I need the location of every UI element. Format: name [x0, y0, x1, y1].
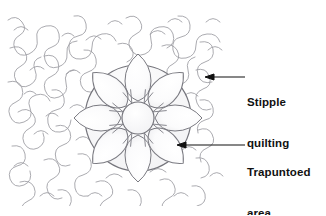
label-trapuntoed-area: Trapuntoed area: [247, 139, 311, 215]
label-stipple-quilting-line1: Stipple: [247, 96, 289, 110]
flower-center-circle: [122, 102, 154, 134]
illustration-root: Stipple quilting Trapuntoed area: [0, 0, 326, 215]
label-trapuntoed-area-line1: Trapuntoed: [247, 166, 311, 180]
trapuntoed-flower-medallion: [74, 54, 202, 182]
label-trapuntoed-area-line2: area: [247, 207, 311, 216]
